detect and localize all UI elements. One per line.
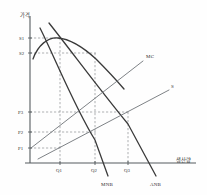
y-axis-label: 가격	[20, 11, 30, 19]
guide-lines	[30, 38, 129, 163]
curve-label-mnb: MNB	[101, 182, 113, 187]
mnb-curve	[40, 28, 108, 176]
curve-label-s: S	[171, 84, 174, 89]
mc-curve	[31, 61, 143, 148]
curve-label-anb: ANB	[150, 182, 162, 187]
x-tick-label-q2: Q2	[91, 168, 98, 173]
y-tick-label-p1: P1	[18, 146, 24, 151]
y-tick-label-s1: S1	[19, 36, 25, 41]
x-tick-label-q1: Q1	[56, 168, 63, 173]
y-tick-label-p3: P3	[18, 110, 24, 115]
curve-label-mc: MC	[146, 54, 155, 59]
x-axis-label: 생산량	[176, 156, 192, 163]
s-curve	[38, 90, 169, 159]
y-tick-label-s2: S2	[19, 51, 25, 56]
x-tick-label-q3: Q3	[124, 168, 131, 173]
economics-chart: 가격 생산량 S1 S2 P3 P2 P1 Q1 Q2 Q3 MC S MNB …	[0, 0, 207, 195]
chart-canvas: 가격 생산량 S1 S2 P3 P2 P1 Q1 Q2 Q3 MC S MNB …	[0, 0, 207, 195]
y-tick-label-p2: P2	[18, 130, 24, 135]
anb-curve	[49, 23, 156, 176]
total-benefit-curve	[33, 38, 124, 89]
